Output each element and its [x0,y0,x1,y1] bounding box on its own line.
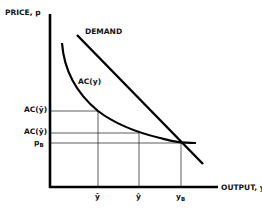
demand-label: DEMAND [85,28,122,36]
tick-label-yb: yB [176,193,185,203]
x-axis-label: OUTPUT, y [221,184,262,192]
demand-line [77,35,203,164]
tick-label-pb: pB [34,139,44,149]
yb-sub: B [181,196,185,202]
axes [49,14,218,188]
pb-sub: B [39,142,43,148]
tick-label-ac-yhat: AC(ŷ) [24,128,47,136]
ac-curve [62,43,196,143]
y-axis-label: PRICE, p [5,9,41,17]
tick-label-ybar: ȳ [95,193,100,201]
tick-label-yhat: ŷ [136,193,141,201]
ac-curve-label: AC(y) [78,78,101,86]
tick-label-ac-ybar: AC(ȳ) [24,106,47,114]
